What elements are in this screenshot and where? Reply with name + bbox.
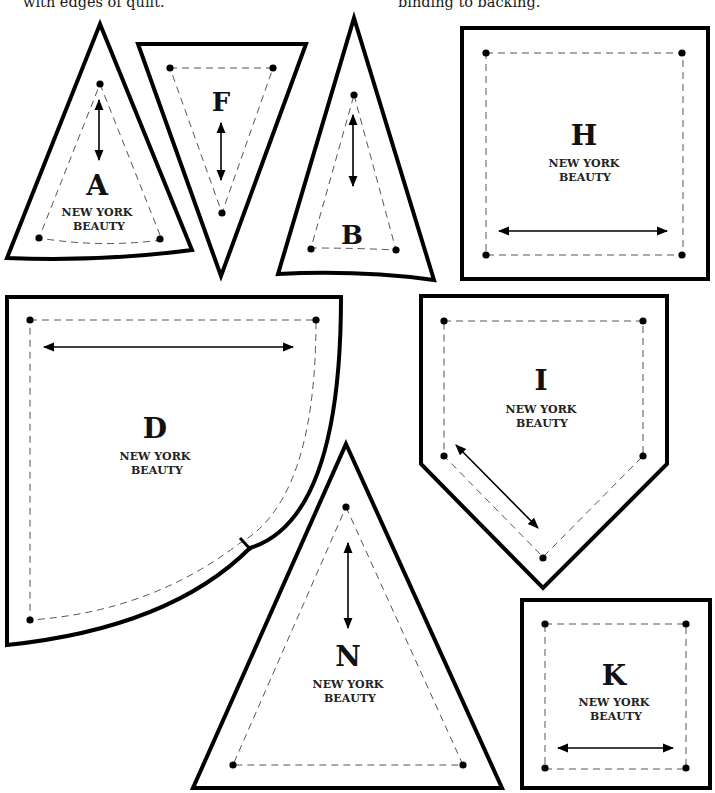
piece-b-corner-dot <box>392 246 399 253</box>
piece-d-label-line2: BEAUTY <box>131 464 183 477</box>
piece-i-letter: I <box>534 364 547 397</box>
piece-b-corner-dot <box>307 245 314 252</box>
piece-a-corner-dot <box>96 80 103 87</box>
piece-k-label-line1: NEW YORK <box>579 696 650 709</box>
piece-n-corner-dot <box>229 761 236 768</box>
piece-k-cut-line <box>522 600 710 788</box>
piece-b-letter: B <box>341 220 363 250</box>
piece-d-label-line1: NEW YORK <box>120 450 191 463</box>
piece-k-corner-dot <box>682 764 689 771</box>
piece-f-letter: F <box>212 87 231 117</box>
piece-n-label-line2: BEAUTY <box>324 692 376 705</box>
piece-d-corner-dot <box>26 316 33 323</box>
piece-i-label-line1: NEW YORK <box>506 403 577 416</box>
piece-f-corner-dot <box>269 64 276 71</box>
piece-k: K NEW YORK BEAUTY <box>522 600 710 788</box>
piece-a-corner-dot <box>156 235 163 242</box>
piece-a-corner-dot <box>35 234 42 241</box>
piece-h-corner-dot <box>482 49 489 56</box>
piece-k-corner-dot <box>682 620 689 627</box>
piece-d-letter: D <box>143 412 167 445</box>
pattern-sheet: A NEW YORK BEAUTY F B H NEW YORK BEAUTY <box>0 0 715 793</box>
piece-a-label-line1: NEW YORK <box>62 206 133 219</box>
piece-k-letter: K <box>602 659 628 692</box>
piece-i-corner-dot <box>440 317 447 324</box>
piece-h-corner-dot <box>678 251 685 258</box>
piece-k-label-line2: BEAUTY <box>590 710 642 723</box>
piece-a-label-line2: BEAUTY <box>73 220 125 233</box>
piece-h-label-line1: NEW YORK <box>549 157 620 170</box>
piece-i: I NEW YORK BEAUTY <box>421 296 667 588</box>
piece-i-corner-dot <box>639 317 646 324</box>
piece-i-label-line2: BEAUTY <box>516 417 568 430</box>
piece-d-corner-dot <box>26 616 33 623</box>
piece-f-corner-dot <box>166 64 173 71</box>
piece-h-corner-dot <box>482 251 489 258</box>
piece-n-corner-dot <box>342 503 349 510</box>
piece-h-label-line2: BEAUTY <box>559 171 611 184</box>
piece-a-letter: A <box>85 169 109 202</box>
piece-b-corner-dot <box>350 91 357 98</box>
piece-n-corner-dot <box>459 761 466 768</box>
piece-h-letter: H <box>571 119 597 152</box>
piece-i-corner-dot <box>440 452 447 459</box>
piece-i-cut-line <box>421 296 667 588</box>
piece-h: H NEW YORK BEAUTY <box>462 28 708 279</box>
piece-k-corner-dot <box>541 764 548 771</box>
piece-n-label-line1: NEW YORK <box>313 678 384 691</box>
piece-f-corner-dot <box>218 209 225 216</box>
piece-k-corner-dot <box>541 620 548 627</box>
piece-i-corner-dot <box>539 554 546 561</box>
piece-h-corner-dot <box>678 49 685 56</box>
piece-d-corner-dot <box>312 316 319 323</box>
piece-n-letter: N <box>335 640 361 673</box>
piece-i-corner-dot <box>639 452 646 459</box>
piece-h-cut-line <box>462 28 708 279</box>
